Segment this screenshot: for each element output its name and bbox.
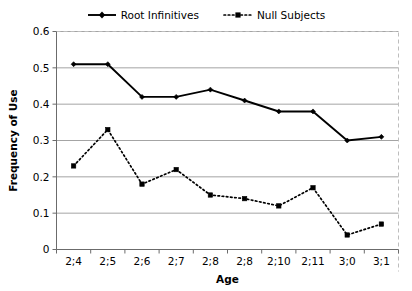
y-tick-label: 0.6: [33, 25, 50, 37]
x-tick-label: 2;6: [134, 255, 151, 267]
y-tick-label: 0: [43, 243, 50, 255]
data-point: [140, 182, 144, 186]
data-point: [106, 127, 110, 131]
data-point: [174, 94, 179, 99]
data-point: [311, 186, 315, 190]
series-line-root-infinitives: [74, 64, 382, 140]
y-tick-label: 0.1: [33, 207, 50, 219]
chart-container: Root Infinitives Null Subjects 00.10.20.…: [0, 0, 412, 291]
x-tick-label: 2;5: [99, 255, 116, 267]
y-tick-label: 0.3: [33, 134, 50, 146]
x-tick-label: 2;8: [236, 255, 253, 267]
x-tick-label: 2;10: [267, 255, 291, 267]
x-tick-label: 2;7: [168, 255, 185, 267]
y-tick-labels: 00.10.20.30.40.50.6: [33, 25, 50, 255]
data-point: [277, 204, 281, 208]
data-point: [345, 233, 349, 237]
data-point: [379, 134, 384, 139]
x-tick-label: 3;0: [339, 255, 356, 267]
x-tick-label: 2;8: [202, 255, 219, 267]
x-tick-label: 2;11: [301, 255, 325, 267]
x-tick-marks: [57, 250, 399, 254]
y-tick-label: 0.4: [33, 98, 50, 110]
data-point: [379, 222, 383, 226]
y-axis-title: Frequency of Use: [7, 89, 19, 191]
data-point: [276, 109, 281, 114]
x-tick-labels: 2;42;52;62;72;82;82;102;113;03;1: [65, 255, 390, 267]
y-tick-label: 0.2: [33, 171, 50, 183]
data-point: [242, 98, 247, 103]
data-point: [71, 62, 76, 67]
data-point: [208, 87, 213, 92]
data-point: [174, 167, 178, 171]
data-point: [242, 196, 246, 200]
x-axis-title: Age: [216, 273, 239, 285]
y-tick-label: 0.5: [33, 62, 50, 74]
series-line-null-subjects: [74, 130, 382, 235]
x-tick-label: 2;4: [65, 255, 82, 267]
plot-area: 00.10.20.30.40.50.6 2;42;52;62;72;82;82;…: [0, 0, 412, 291]
plot-svg: 00.10.20.30.40.50.6 2;42;52;62;72;82;82;…: [0, 0, 412, 291]
x-tick-label: 3;1: [373, 255, 390, 267]
y-tick-marks: [53, 32, 57, 250]
data-point: [71, 164, 75, 168]
series-root-infinitives: [71, 62, 384, 143]
data-point: [208, 193, 212, 197]
series-null-subjects: [71, 127, 383, 237]
